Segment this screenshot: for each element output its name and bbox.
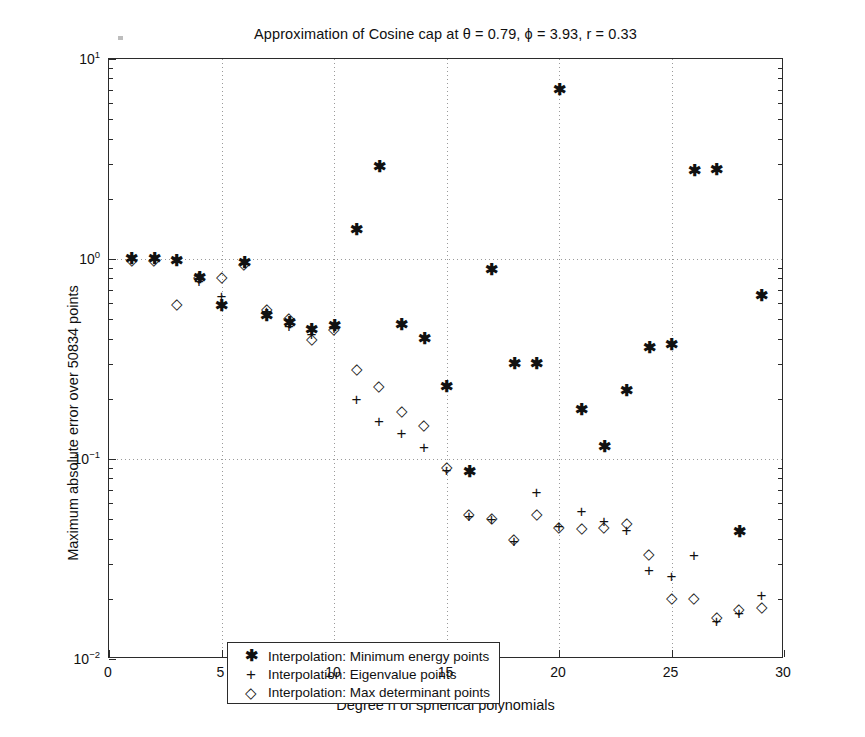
y-axis-minor-tick (778, 599, 782, 600)
data-point-diamond: ◇ (666, 589, 678, 604)
data-point-asterisk: ✱ (418, 331, 431, 347)
data-point-diamond: ◇ (508, 530, 520, 545)
plus-marker-icon: + (234, 666, 268, 683)
y-axis-minor-tick (109, 319, 113, 320)
data-point-asterisk: ✱ (665, 337, 678, 353)
data-point-diamond: ◇ (711, 608, 723, 623)
x-axis-tick (559, 650, 560, 657)
y-axis-minor-tick (778, 68, 782, 69)
data-point-plus: + (352, 390, 362, 407)
data-point-diamond: ◇ (553, 519, 565, 534)
y-axis-minor-tick (109, 290, 113, 291)
data-point-asterisk: ✱ (508, 356, 521, 372)
gridline-vertical (222, 59, 223, 657)
y-axis-minor-tick (109, 599, 113, 600)
y-axis-minor-tick (109, 539, 113, 540)
y-axis-minor-tick (109, 103, 113, 104)
legend-item-label: Interpolation: Minimum energy points (268, 649, 489, 664)
y-axis-minor-tick (109, 268, 113, 269)
data-point-diamond: ◇ (328, 321, 340, 336)
data-point-asterisk: ✱ (373, 159, 386, 175)
y-axis-minor-tick (778, 519, 782, 520)
y-axis-minor-tick (109, 478, 113, 479)
data-point-diamond: ◇ (283, 310, 295, 325)
data-point-asterisk: ✱ (620, 383, 633, 399)
diamond-marker-icon: ◇ (234, 685, 268, 700)
x-axis-tick (109, 101, 110, 108)
data-point-asterisk: ✱ (575, 402, 588, 418)
y-tick-label: 100 (40, 249, 100, 267)
y-axis-tick (109, 259, 116, 260)
gridline-vertical (447, 59, 448, 657)
data-point-diamond: ◇ (621, 514, 633, 529)
data-point-diamond: ◇ (531, 505, 543, 520)
data-point-diamond: ◇ (373, 377, 385, 392)
data-point-asterisk: ✱ (710, 162, 723, 178)
y-axis-tick (109, 59, 116, 60)
y-axis-minor-tick (778, 164, 782, 165)
y-axis-minor-tick (109, 564, 113, 565)
plot-area: ✱✱✱✱✱✱✱✱✱✱✱✱✱✱✱✱✱✱✱✱✱✱✱✱✱✱✱✱✱+++++++++++… (108, 58, 783, 658)
x-axis-tick (109, 650, 110, 657)
data-point-diamond: ◇ (576, 520, 588, 535)
gridline-vertical (559, 59, 560, 657)
y-axis-minor-tick (109, 490, 113, 491)
data-point-plus: + (689, 547, 699, 564)
legend: ✱ Interpolation: Minimum energy points +… (227, 642, 500, 704)
y-axis-minor-tick (778, 278, 782, 279)
data-point-asterisk: ✱ (485, 262, 498, 278)
y-axis-label: Maximum absolute error over 50834 points (65, 213, 81, 633)
data-point-plus: + (419, 438, 429, 455)
x-axis-tick (672, 650, 673, 657)
data-point-plus: + (397, 424, 407, 441)
y-tick-label: 101 (40, 49, 100, 67)
data-point-diamond: ◇ (463, 505, 475, 520)
y-axis-minor-tick (109, 278, 113, 279)
x-axis-tick (109, 94, 110, 101)
x-axis-tick (784, 650, 785, 657)
x-tick-label: 20 (550, 664, 566, 680)
y-axis-minor-tick (778, 90, 782, 91)
y-axis-minor-tick (778, 103, 782, 104)
y-axis-minor-tick (778, 539, 782, 540)
data-point-plus: + (374, 412, 384, 429)
legend-item: + Interpolation: Eigenvalue points (228, 665, 499, 683)
data-point-asterisk: ✱ (553, 82, 566, 98)
x-tick-label: 5 (217, 664, 225, 680)
y-tick-label: 10−1 (40, 449, 100, 467)
asterisk-marker-icon: ✱ (234, 648, 268, 664)
y-axis-minor-tick (109, 399, 113, 400)
data-point-diamond: ◇ (193, 269, 205, 284)
legend-item: ◇ Interpolation: Max determinant points (228, 683, 499, 701)
data-point-plus: + (577, 502, 587, 519)
data-point-diamond: ◇ (261, 300, 273, 315)
data-point-diamond: ◇ (396, 403, 408, 418)
y-axis-tick (109, 659, 116, 660)
y-axis-minor-tick (778, 364, 782, 365)
data-point-asterisk: ✱ (755, 288, 768, 304)
y-tick-label: 10−2 (40, 649, 100, 667)
y-axis-minor-tick (778, 503, 782, 504)
data-point-diamond: ◇ (126, 252, 138, 267)
legend-item-label: Interpolation: Eigenvalue points (268, 667, 456, 682)
data-point-diamond: ◇ (306, 330, 318, 345)
y-axis-minor-tick (109, 90, 113, 91)
y-axis-minor-tick (778, 139, 782, 140)
x-tick-label: 30 (775, 664, 791, 680)
y-axis-minor-tick (778, 319, 782, 320)
data-point-asterisk: ✱ (350, 222, 363, 238)
data-point-diamond: ◇ (643, 545, 655, 560)
x-tick-label: 10 (325, 664, 341, 680)
legend-item-label: Interpolation: Max determinant points (268, 685, 490, 700)
data-point-asterisk: ✱ (463, 464, 476, 480)
axis-ticks (109, 59, 782, 113)
data-point-asterisk: ✱ (733, 524, 746, 540)
y-axis-minor-tick (109, 78, 113, 79)
figure: Approximation of Cosine cap at θ = 0.79,… (0, 0, 865, 737)
y-axis-minor-tick (778, 268, 782, 269)
data-point-plus: + (667, 568, 677, 585)
y-axis-minor-tick (778, 290, 782, 291)
y-axis-tick (109, 459, 116, 460)
x-tick-label: 15 (438, 664, 454, 680)
data-point-diamond: ◇ (598, 519, 610, 534)
